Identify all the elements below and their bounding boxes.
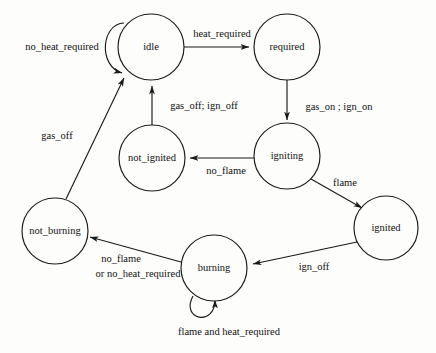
transition-label-not-burning-to-idle: gas_off	[41, 130, 73, 141]
transition-label-idle-self: no_heat_required	[25, 41, 99, 52]
transition-label-required-to-igniting: gas_on ; ign_on	[305, 101, 373, 112]
transition-label-not-ignited-to-idle: gas_off; ign_off	[170, 100, 238, 111]
state-label-not-ignited: not_ignited	[128, 152, 177, 163]
state-node-burning[interactable]: burning	[181, 235, 247, 301]
state-machine-diagram: no_heat_required heat_required gas_on ; …	[0, 0, 436, 353]
state-label-burning: burning	[198, 262, 231, 273]
state-node-ignited[interactable]: ignited	[354, 196, 418, 260]
state-node-igniting[interactable]: igniting	[254, 123, 320, 189]
transition-label-burning-to-not-burning: no_flame	[101, 253, 141, 264]
state-node-not-ignited[interactable]: not_ignited	[119, 125, 185, 191]
state-label-ignited: ignited	[371, 222, 401, 233]
state-node-idle[interactable]: idle	[118, 14, 184, 80]
transition-idle-to-required: heat_required	[184, 28, 252, 47]
transition-required-to-igniting: gas_on ; ign_on	[287, 80, 373, 120]
state-label-not-burning: not_burning	[29, 225, 81, 236]
diagram-canvas: no_heat_required heat_required gas_on ; …	[0, 0, 436, 353]
transition-igniting-to-ignited: flame	[311, 177, 362, 208]
state-label-required: required	[270, 41, 306, 52]
transition-label-ignited-to-burning: ign_off	[299, 261, 330, 272]
transition-label-idle-to-required: heat_required	[193, 28, 251, 39]
transition-burning-self: flame and heat_required	[178, 296, 281, 337]
transition-label-igniting-to-ignited: flame	[333, 177, 357, 188]
transition-igniting-to-not-ignited: no_flame	[190, 158, 254, 176]
transition-label-burning-self: flame and heat_required	[178, 326, 281, 337]
state-label-idle: idle	[143, 41, 159, 52]
transition-not-ignited-to-idle: gas_off; ign_off	[152, 86, 238, 125]
transition-not-burning-to-idle: gas_off	[41, 78, 124, 199]
state-label-igniting: igniting	[271, 150, 304, 161]
transition-burning-to-not-burning: no_flame or no_heat_required	[90, 237, 181, 279]
transition-label-igniting-to-not-ignited: no_flame	[206, 165, 246, 176]
transition-idle-self: no_heat_required	[25, 23, 124, 73]
transition-ignited-to-burning: ign_off	[253, 242, 357, 272]
state-node-not-burning[interactable]: not_burning	[22, 198, 88, 264]
transition-label-burning-to-not-burning-line2: or no_heat_required	[96, 268, 182, 279]
state-node-required[interactable]: required	[254, 14, 320, 80]
